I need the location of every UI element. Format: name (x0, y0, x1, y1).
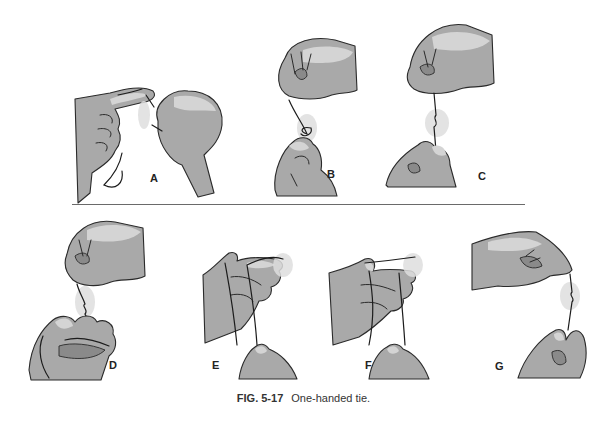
panel-label-f: F (365, 359, 372, 371)
hand-illustration-f (325, 245, 445, 385)
panel-label-e: E (212, 359, 219, 371)
panel-label-b: B (327, 168, 335, 180)
panel-c: C (380, 15, 500, 200)
panel-a: A (70, 85, 240, 205)
hand-illustration-g (468, 228, 603, 385)
panel-e: E (195, 245, 315, 385)
panel-g: G (468, 228, 603, 385)
figure-one-handed-tie: A B C (0, 0, 607, 421)
panel-d: D (25, 210, 165, 385)
panel-label-d: D (109, 359, 117, 371)
panel-label-c: C (478, 170, 486, 182)
panel-f: F (325, 245, 445, 385)
hand-illustration-d (25, 210, 165, 385)
panel-divider (72, 204, 525, 205)
figure-number: FIG. 5-17 (237, 392, 283, 404)
panel-label-a: A (150, 172, 158, 184)
panel-b: B (255, 30, 365, 200)
hand-illustration-a (70, 85, 240, 205)
figure-caption-text: One-handed tie. (291, 392, 370, 404)
figure-caption: FIG. 5-17One-handed tie. (0, 392, 607, 404)
panel-label-g: G (495, 360, 504, 372)
hand-illustration-b (255, 30, 365, 200)
